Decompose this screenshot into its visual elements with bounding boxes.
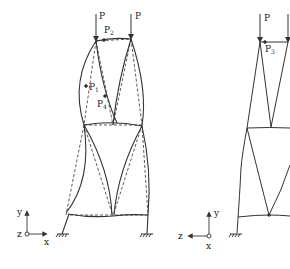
axis-z-right: z xyxy=(178,231,183,241)
label-p4-sub: 4 xyxy=(103,103,107,110)
axis-z-left: z xyxy=(17,229,22,239)
left-frame xyxy=(56,14,153,237)
label-p1-sub: 1 xyxy=(95,86,99,93)
label-p3-sub: 3 xyxy=(271,48,275,55)
deformed-shape xyxy=(62,38,149,234)
load-label-right: P xyxy=(135,11,141,21)
load-label-left: P xyxy=(99,11,105,21)
axes-right xyxy=(190,214,211,238)
axis-y-left: y xyxy=(16,207,23,217)
axis-x-left: x xyxy=(44,237,49,247)
undeformed-shape xyxy=(66,39,148,216)
load-label-right-fig: P xyxy=(264,13,270,23)
axis-y-right: y xyxy=(213,208,220,218)
axes-left xyxy=(25,213,45,236)
right-frame xyxy=(229,14,290,237)
axis-x-right: x xyxy=(206,241,211,251)
structure-diagram: P P P 2 P 1 P 4 y z x P P 3 xyxy=(0,0,290,269)
label-p2-sub: 2 xyxy=(110,29,114,36)
fixed-support-right xyxy=(140,234,153,237)
fixed-support-left xyxy=(56,234,69,237)
fixed-support-right-fig xyxy=(229,234,242,237)
